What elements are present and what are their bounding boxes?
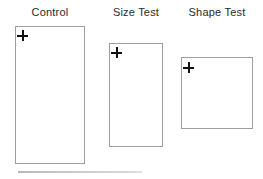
control-label: Control	[15, 6, 85, 18]
figure-canvas: Control Size Test Shape Test	[0, 0, 263, 179]
plus-icon	[17, 30, 28, 41]
control-rectangle	[15, 26, 85, 164]
size-test-label: Size Test	[109, 6, 163, 18]
scan-artifact-line	[18, 171, 142, 173]
plus-icon	[183, 62, 194, 73]
size-test-rectangle	[109, 43, 163, 147]
plus-icon	[111, 47, 122, 58]
shape-test-label: Shape Test	[181, 6, 253, 18]
